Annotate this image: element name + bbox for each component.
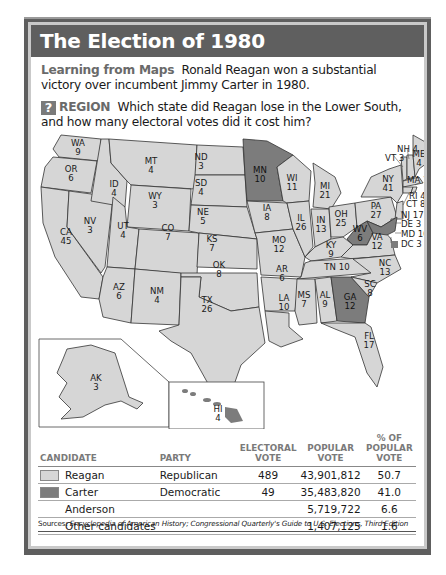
- frame-inner: The Election of 1980 Learning from Maps …: [28, 22, 427, 549]
- callout-de: DE 3: [401, 219, 421, 229]
- label-la: LA10: [279, 293, 290, 312]
- carter-swatch: [40, 487, 59, 498]
- header-party: PARTY: [158, 433, 238, 467]
- header-electoral: ELECTORALVOTE: [238, 433, 299, 467]
- candidate-name: Reagan: [65, 469, 104, 481]
- candidate-name: Carter: [65, 486, 98, 498]
- dc-swatch: [391, 241, 398, 248]
- label-pa: PA27: [371, 201, 382, 220]
- popular-pct: 41.0: [363, 484, 416, 501]
- party: Republican: [158, 467, 238, 484]
- label-mi: MI21: [320, 181, 331, 200]
- callout-ma: MA 14: [407, 175, 424, 185]
- header-popular: POPULARVOTE: [299, 433, 363, 467]
- party: [158, 501, 238, 518]
- label-ga: GA12: [344, 292, 357, 311]
- label-oh: OH25: [334, 209, 347, 228]
- popular-vote: 5,719,722: [299, 501, 363, 518]
- popular-pct: 50.7: [363, 467, 416, 484]
- table-header-row: CANDIDATE PARTY ELECTORALVOTE POPULARVOT…: [38, 433, 416, 467]
- candidate-name: Anderson: [65, 503, 115, 515]
- label-mo: MO12: [272, 235, 286, 254]
- label-ny: NY41: [382, 174, 394, 193]
- figure-frame: The Election of 1980 Learning from Maps …: [24, 17, 431, 555]
- electoral-vote: 489: [238, 467, 299, 484]
- label-ca: CA45: [60, 227, 72, 246]
- callout-dc: DC 3: [401, 239, 422, 249]
- label-nc: NC13: [379, 258, 391, 277]
- label-va: VA12: [371, 232, 382, 251]
- label-tn: TN 10: [323, 262, 349, 272]
- us-election-map: WA9 OR6 CA45 NV3 ID4 MT4 WY3 UT4 CO7 AZ6…: [31, 127, 424, 429]
- table-row: Reagan Republican 489 43,901,812 50.7: [38, 467, 416, 484]
- popular-pct: 6.6: [363, 501, 416, 518]
- table-row: Anderson 5,719,722 6.6: [38, 501, 416, 518]
- party: Democratic: [158, 484, 238, 501]
- header-candidate: CANDIDATE: [38, 433, 158, 467]
- sources-label: Sources:: [38, 519, 68, 528]
- callout-ct: CT 8: [406, 199, 424, 209]
- intro-text: Learning from Maps Ronald Reagan won a s…: [41, 63, 414, 93]
- electoral-vote: 49: [238, 484, 299, 501]
- figure-title: The Election of 1980: [31, 25, 424, 57]
- question-mark-icon: ?: [41, 101, 56, 115]
- popular-vote: 35,483,820: [299, 484, 363, 501]
- label-wi: WI11: [286, 173, 297, 192]
- callout-md: MD 10: [401, 229, 424, 239]
- callout-vt: VT 3: [385, 153, 404, 163]
- electoral-vote: [238, 501, 299, 518]
- region-question: ?REGION Which state did Reagan lose in t…: [41, 100, 414, 130]
- figure-panel: The Election of 1980 Learning from Maps …: [31, 25, 424, 546]
- label-fl: FL17: [364, 331, 375, 350]
- label-in: IN13: [316, 215, 327, 234]
- reagan-swatch: [40, 470, 59, 481]
- label-tx: TX26: [200, 295, 212, 314]
- sources-note: Sources: Encyclopedia of American Histor…: [38, 519, 416, 532]
- question-label: REGION: [59, 100, 110, 114]
- table-row: Carter Democratic 49 35,483,820 41.0: [38, 484, 416, 501]
- header-pct: % OFPOPULAR VOTE: [363, 433, 416, 467]
- label-mn: MN10: [253, 165, 267, 184]
- sources-text: Encyclopedia of American History; Congre…: [70, 519, 408, 528]
- popular-vote: 43,901,812: [299, 467, 363, 484]
- intro-label: Learning from Maps: [41, 63, 174, 77]
